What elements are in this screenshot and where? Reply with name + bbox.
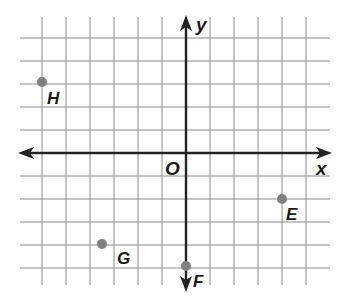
y-axis-label: y <box>195 14 208 35</box>
origin-label: O <box>165 158 180 179</box>
x-axis-label: x <box>315 158 328 179</box>
points: H G E F <box>37 77 298 291</box>
point-g <box>97 239 107 249</box>
axes: y x O <box>18 14 332 292</box>
point-e <box>277 194 287 204</box>
point-h-label: H <box>47 89 60 108</box>
point-e-label: E <box>286 205 298 224</box>
point-f <box>181 261 191 271</box>
point-f-label: F <box>193 272 204 291</box>
point-h <box>37 77 47 87</box>
coordinate-plane: y x O H G E F <box>0 0 346 296</box>
point-g-label: G <box>117 249 130 268</box>
grid-lines <box>20 17 330 285</box>
